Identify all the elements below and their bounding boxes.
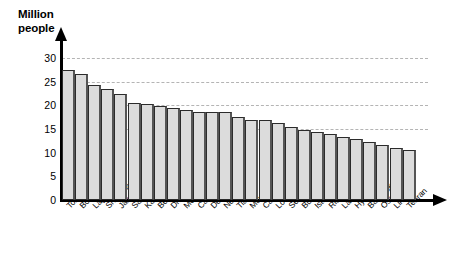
bar [259, 120, 272, 200]
bar-chart: Million people 051015202530 TokyoBombayL… [0, 0, 475, 277]
bar [154, 106, 167, 200]
y-axis-arrow-icon [55, 27, 67, 41]
x-axis-arrow-icon [433, 194, 447, 206]
bar [390, 148, 403, 200]
bar [376, 145, 389, 200]
y-tick-label: 5 [50, 171, 56, 182]
bar [114, 94, 127, 200]
bar [298, 130, 311, 200]
bar [272, 123, 285, 200]
bar [403, 150, 416, 200]
y-tick-label: 25 [44, 77, 56, 88]
y-tick-label: 0 [50, 195, 56, 206]
bar [363, 142, 376, 200]
bar [88, 85, 101, 200]
bar [219, 112, 232, 200]
y-axis-tick-labels: 051015202530 [0, 0, 56, 277]
bar [285, 127, 298, 200]
bar [232, 117, 245, 200]
y-tick-label: 30 [44, 53, 56, 64]
bar [141, 104, 154, 200]
bar [337, 137, 350, 200]
bar [101, 89, 114, 200]
bar [180, 110, 193, 200]
bar [350, 139, 363, 200]
bar [245, 120, 258, 200]
bar [62, 70, 75, 200]
bar [75, 74, 88, 200]
bar [128, 103, 141, 200]
plot-area [62, 52, 415, 200]
y-tick-label: 20 [44, 100, 56, 111]
bar [324, 134, 337, 200]
bar [167, 108, 180, 200]
bar [206, 112, 219, 200]
bar [311, 132, 324, 200]
bar [193, 112, 206, 200]
y-tick-label: 10 [44, 148, 56, 159]
y-tick-label: 15 [44, 124, 56, 135]
